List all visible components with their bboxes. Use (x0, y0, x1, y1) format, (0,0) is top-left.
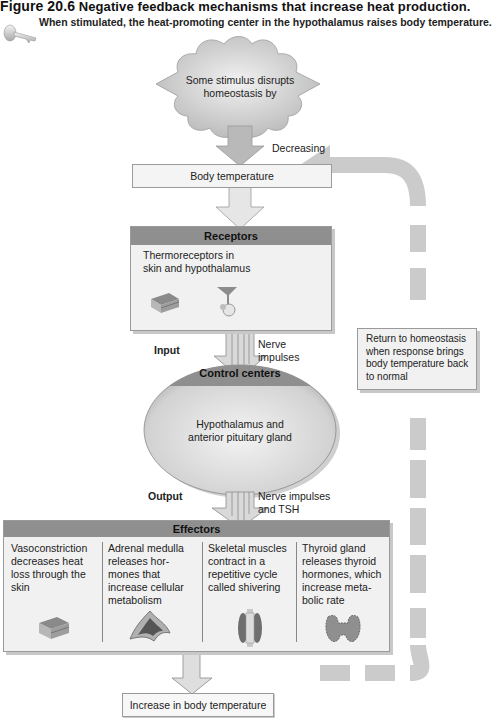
stimulus-line-2: homeostasis by (180, 87, 300, 100)
arrow-effectors-to-response (172, 652, 212, 694)
control-center-description: Hypothalamus and anterior pituitary glan… (144, 418, 336, 444)
output-signal: Nerve impulses and TSH (220, 490, 330, 516)
effector-skeletal-muscles: Skeletal muscles contract in a repetitiv… (208, 542, 298, 594)
receptors-line-1: Thermoreceptors in (143, 249, 331, 262)
control-center-line-1: Hypothalamus and (144, 418, 336, 431)
return-line-2: when response brings (366, 346, 476, 359)
receptors-box: Receptors Thermoreceptors in skin and hy… (130, 226, 332, 331)
effector-line: contract in a (208, 555, 298, 568)
effector-line: releases hor- (108, 555, 200, 568)
variable-label: Body temperature (190, 170, 273, 182)
arrow-variable-to-receptors (216, 186, 264, 229)
input-signal: Nerve impulses (220, 338, 299, 364)
effector-line: increase meta- (302, 581, 388, 594)
effector-adrenal-medulla: Adrenal medulla releases hor- mones that… (108, 542, 200, 607)
output-signal-line-2: and TSH (258, 503, 330, 516)
effector-line: repetitive cycle (208, 568, 298, 581)
effector-line: loss through the (11, 568, 99, 581)
neuron-icon (215, 283, 241, 319)
receptors-header: Receptors (131, 227, 331, 245)
input-label: Input (154, 344, 180, 357)
effector-line: called shivering (208, 581, 298, 594)
effector-line: Adrenal medulla (108, 542, 200, 555)
return-homeostasis-box: Return to homeostasis when response brin… (357, 328, 477, 390)
effector-vasoconstriction: Vasoconstriction decreases heat loss thr… (11, 542, 99, 594)
column-divider (296, 542, 297, 642)
input-signal-line-2: impulses (258, 351, 299, 364)
receptors-line-2: skin and hypothalamus (143, 262, 331, 275)
effector-line: metabolism (108, 594, 200, 607)
receptors-description: Thermoreceptors in skin and hypothalamus (131, 245, 331, 275)
skin-section-icon (149, 291, 181, 315)
stimulus-text: Some stimulus disrupts homeostasis by (180, 74, 300, 100)
control-center-header: Control centers (144, 367, 336, 379)
response-label: Increase in body temperature (130, 699, 267, 711)
response-box: Increase in body temperature (122, 693, 274, 717)
variable-box: Body temperature (132, 164, 332, 188)
effector-line: mones that (108, 568, 200, 581)
stimulus-line-1: Some stimulus disrupts (180, 74, 300, 87)
effector-line: releases thyroid (302, 555, 388, 568)
skin-section-icon (37, 615, 71, 641)
effector-line: skin (11, 581, 99, 594)
output-label: Output (148, 490, 182, 503)
effectors-header: Effectors (4, 521, 389, 537)
effector-line: Vasoconstriction (11, 542, 99, 555)
effector-line: Skeletal muscles (208, 542, 298, 555)
effectors-box: Effectors Vasoconstriction decreases hea… (3, 520, 390, 652)
stimulus-direction-label: Decreasing (272, 142, 325, 155)
thyroid-gland-icon (324, 613, 362, 643)
column-divider (202, 542, 203, 642)
column-divider (102, 542, 103, 642)
effector-line: Thyroid gland (302, 542, 388, 555)
effectors-columns: Vasoconstriction decreases heat loss thr… (4, 537, 389, 651)
effector-line: increase cellular (108, 581, 200, 594)
return-line-3: body temperature back (366, 358, 476, 371)
effector-thyroid-gland: Thyroid gland releases thyroid hormones,… (302, 542, 388, 607)
return-line-1: Return to homeostasis (366, 333, 476, 346)
effector-line: hormones, which (302, 568, 388, 581)
control-center-line-2: anterior pituitary gland (144, 431, 336, 444)
effector-line: decreases heat (11, 555, 99, 568)
effector-line: bolic rate (302, 594, 388, 607)
return-line-4: to normal (366, 371, 476, 384)
adrenal-gland-icon (128, 609, 172, 643)
input-signal-line-1: Nerve (258, 338, 299, 351)
output-signal-line-1: Nerve impulses (258, 490, 330, 503)
muscle-icon (236, 609, 264, 647)
